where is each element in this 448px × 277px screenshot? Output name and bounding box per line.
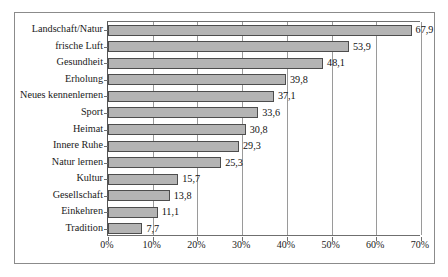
category-tick-mark (104, 196, 108, 197)
category-tick-mark (104, 212, 108, 213)
gridline (287, 22, 288, 235)
gridline (332, 22, 333, 235)
category-label: Sport (81, 106, 103, 117)
bar-value-label: 39,8 (290, 74, 308, 85)
category-tick-mark (104, 96, 108, 97)
bar-value-label: 13,8 (174, 190, 192, 201)
bar (108, 141, 239, 152)
bar (108, 207, 158, 218)
bar-value-label: 25,3 (225, 157, 243, 168)
bar-value-label: 67,9 (416, 24, 434, 35)
category-label: Innere Ruhe (53, 139, 103, 150)
category-label: Kultur (76, 172, 103, 183)
category-tick-mark (104, 179, 108, 180)
axis-tick-label: 40% (266, 239, 306, 250)
gridline (376, 22, 377, 235)
bar-chart-figure: Landschaft/Naturfrische LuftGesundheitEr… (0, 0, 448, 277)
axis-tick-label: 30% (221, 239, 261, 250)
category-tick-mark (104, 146, 108, 147)
axis-tick-label: 70% (400, 239, 440, 250)
category-label: Gesellschaft (53, 189, 103, 200)
category-label: Heimat (73, 123, 103, 134)
bar-value-label: 29,3 (243, 140, 261, 151)
bar (108, 107, 258, 118)
bar-value-label: 11,1 (162, 206, 179, 217)
category-label: Natur lernen (52, 156, 103, 167)
bar (108, 223, 142, 234)
category-label: Neues kennenlernen (20, 89, 103, 100)
plot-area: 67,953,948,139,837,133,630,829,325,315,7… (107, 21, 420, 236)
gridline (421, 22, 422, 235)
category-tick-mark (104, 47, 108, 48)
category-tick-mark (104, 130, 108, 131)
bar-value-label: 30,8 (250, 124, 268, 135)
bar-value-label: 15,7 (182, 173, 200, 184)
category-label: Gesundheit (57, 56, 103, 67)
category-label: Landschaft/Natur (32, 23, 103, 34)
axis-tick-label: 60% (355, 239, 395, 250)
bar (108, 91, 274, 102)
category-tick-mark (104, 63, 108, 64)
bar-value-label: 53,9 (353, 41, 371, 52)
category-label: Erholung (65, 73, 103, 84)
axis-tick-label: 10% (132, 239, 172, 250)
axis-tick-label: 50% (311, 239, 351, 250)
category-label: Tradition (65, 222, 103, 233)
bar-value-label: 48,1 (327, 57, 345, 68)
bar (108, 174, 178, 185)
bar-value-label: 33,6 (262, 107, 280, 118)
category-tick-mark (104, 163, 108, 164)
category-axis-labels: Landschaft/Naturfrische LuftGesundheitEr… (14, 21, 103, 236)
category-tick-mark (104, 30, 108, 31)
category-tick-mark (104, 113, 108, 114)
bar (108, 74, 286, 85)
bar (108, 41, 349, 52)
axis-tick-label: 20% (176, 239, 216, 250)
bar-value-label: 7,7 (146, 223, 159, 234)
bar (108, 58, 323, 69)
bar (108, 124, 246, 135)
category-tick-mark (104, 229, 108, 230)
bar (108, 157, 221, 168)
bar (108, 190, 170, 201)
category-label: frische Luft (55, 40, 103, 51)
bar-value-label: 37,1 (278, 90, 296, 101)
category-label: Einkehren (61, 205, 103, 216)
category-tick-mark (104, 80, 108, 81)
axis-tick-label: 0% (87, 239, 127, 250)
bar (108, 25, 412, 36)
